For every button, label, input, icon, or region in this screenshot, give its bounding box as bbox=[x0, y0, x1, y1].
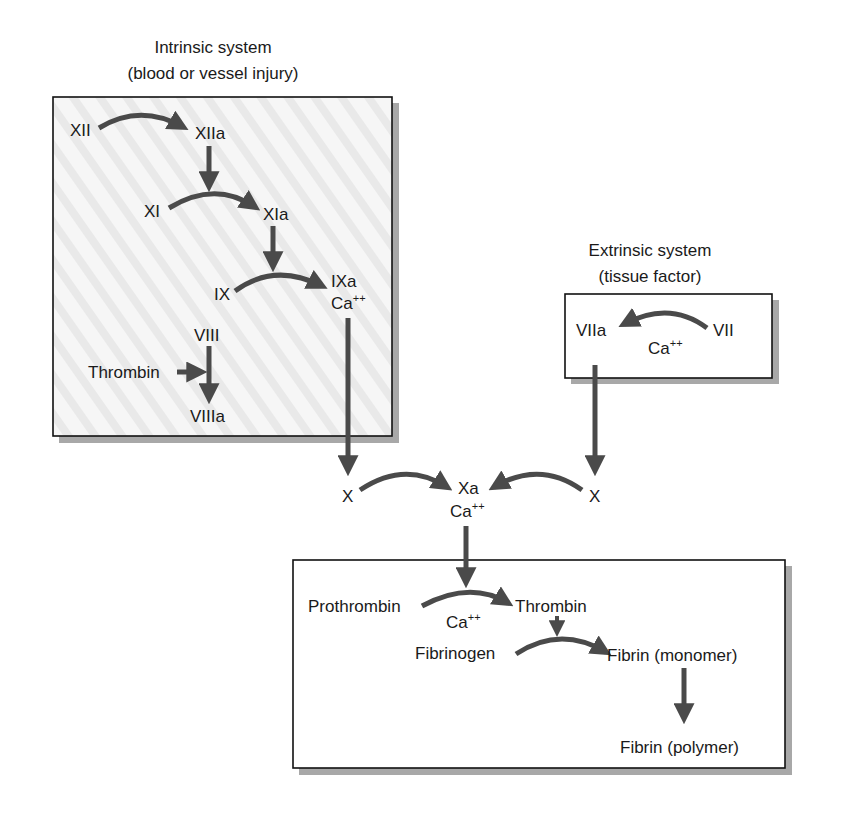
label-ix: IX bbox=[214, 285, 230, 304]
label-x-left: X bbox=[342, 487, 353, 506]
label-fibrin-polymer: Fibrin (polymer) bbox=[620, 738, 739, 757]
label-thrombin-intrinsic: Thrombin bbox=[88, 363, 160, 382]
label-viia: VIIa bbox=[576, 321, 607, 340]
label-ca-common: Ca++ bbox=[450, 500, 485, 521]
intrinsic-subtitle: (blood or vessel injury) bbox=[127, 64, 298, 83]
label-xia: XIa bbox=[263, 205, 289, 224]
label-prothrombin: Prothrombin bbox=[308, 597, 401, 616]
extrinsic-subtitle: (tissue factor) bbox=[599, 267, 702, 286]
arrow-x-left-to-xa bbox=[360, 474, 447, 490]
label-fibrin-monomer: Fibrin (monomer) bbox=[607, 646, 737, 665]
intrinsic-title: Intrinsic system bbox=[154, 38, 271, 57]
label-xiia: XIIa bbox=[195, 124, 226, 143]
label-vii: VII bbox=[713, 321, 734, 340]
arrow-x-right-to-xa bbox=[494, 474, 582, 490]
label-x-right: X bbox=[589, 487, 600, 506]
label-xi: XI bbox=[144, 202, 160, 221]
extrinsic-title: Extrinsic system bbox=[589, 241, 712, 260]
label-viiia: VIIIa bbox=[190, 407, 226, 426]
label-ixa: IXa bbox=[331, 272, 357, 291]
label-fibrinogen: Fibrinogen bbox=[415, 644, 495, 663]
coagulation-cascade-diagram: Intrinsic system (blood or vessel injury… bbox=[0, 0, 848, 826]
label-xii: XII bbox=[70, 121, 91, 140]
label-xa: Xa bbox=[458, 479, 479, 498]
label-thrombin: Thrombin bbox=[515, 597, 587, 616]
label-viii: VIII bbox=[194, 326, 220, 345]
